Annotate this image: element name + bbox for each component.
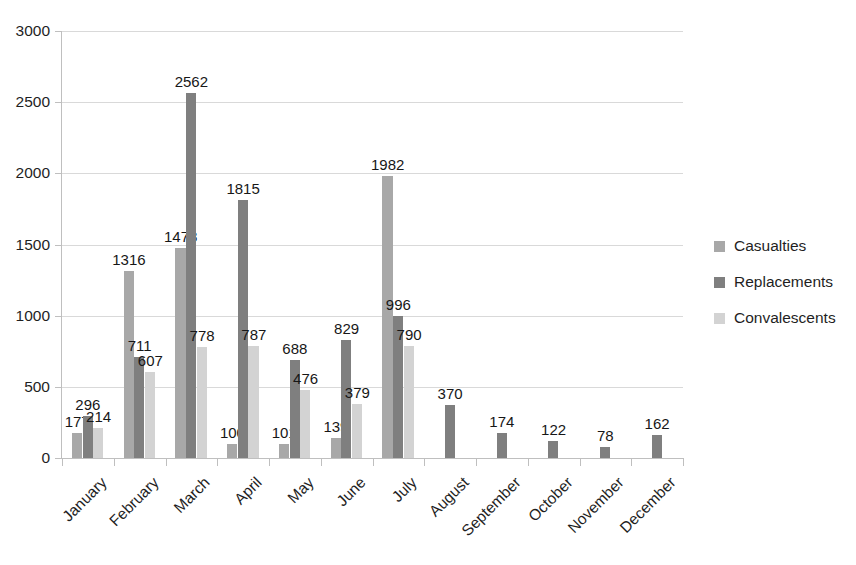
x-axis-tick [269,458,270,466]
x-axis-tick [373,458,374,466]
category-group: 78 [580,31,632,458]
bar-replacements-october [548,441,558,458]
bar-value-label: 2562 [165,74,217,89]
bar-replacements-march [186,93,196,458]
category-group: 101688476 [269,31,321,458]
category-group: 1982996790 [373,31,425,458]
bar-convalescents-march [197,347,207,458]
x-axis-tick [321,458,322,466]
category-group: 1316711607 [114,31,166,458]
x-axis-tick [683,458,684,466]
category-group: 1001815787 [217,31,269,458]
x-axis-tick [580,458,581,466]
bar-convalescents-july [404,346,414,458]
bar-value-label: 829 [321,321,373,336]
x-axis-tick [476,458,477,466]
category-group: 174 [476,31,528,458]
x-axis-tick [166,458,167,466]
category-group: 162 [631,31,683,458]
x-axis-tick [114,458,115,466]
x-axis-tick [424,458,425,466]
bar-value-label: 370 [424,386,476,401]
plot-area: 1772962141316711607147825627781001815787… [62,31,683,458]
y-axis-label: 500 [24,379,50,395]
category-group: 139829379 [321,31,373,458]
chart-legend: CasualtiesReplacementsConvalescents [714,228,836,336]
y-axis-label: 2000 [16,165,50,181]
legend-swatch-icon [714,313,725,324]
bar-casualties-july [382,176,392,458]
x-axis-tick [62,458,63,466]
bar-casualties-may [279,444,289,458]
legend-item-convalescents[interactable]: Convalescents [714,300,836,336]
x-axis-tick [631,458,632,466]
y-axis-label: 2500 [16,94,50,110]
y-axis-label: 1500 [16,237,50,253]
bar-convalescents-january [93,428,103,458]
category-group: 14782562778 [166,31,218,458]
y-axis-label: 3000 [16,23,50,39]
bar-convalescents-april [248,346,258,458]
bar-replacements-december [652,435,662,458]
bar-replacements-november [600,447,610,458]
category-group: 370 [424,31,476,458]
bar-value-label: 78 [579,428,631,443]
bar-value-label: 162 [631,416,683,431]
bar-value-label: 688 [269,341,321,356]
bar-replacements-september [497,433,507,458]
legend-swatch-icon [714,277,725,288]
legend-label: Convalescents [734,310,836,326]
bar-replacements-august [445,405,455,458]
bar-replacements-february [134,357,144,458]
bar-casualties-april [227,444,237,458]
bar-casualties-june [331,438,341,458]
bar-chart: 300025002000150010005000 177296214131671… [0,0,856,565]
category-group: 177296214 [62,31,114,458]
y-axis-label: 1000 [16,308,50,324]
bar-value-label: 1982 [362,157,414,172]
legend-swatch-icon [714,241,725,252]
bar-casualties-march [175,248,185,458]
bar-value-label: 122 [528,422,580,437]
bar-value-label: 711 [114,338,166,353]
bar-value-label: 174 [476,414,528,429]
bar-convalescents-june [352,404,362,458]
bar-value-label: 1316 [103,252,155,267]
bar-convalescents-february [145,372,155,458]
bar-convalescents-may [300,390,310,458]
bar-value-label: 1815 [217,181,269,196]
y-axis-label: 0 [41,450,50,466]
legend-item-replacements[interactable]: Replacements [714,264,836,300]
bar-casualties-january [72,433,82,458]
bar-value-label: 1478 [155,229,207,244]
bar-value-label: 996 [372,297,424,312]
x-axis-tick [528,458,529,466]
legend-item-casualties[interactable]: Casualties [714,228,836,264]
category-group: 122 [528,31,580,458]
x-axis-tick [217,458,218,466]
legend-label: Casualties [734,238,806,254]
legend-label: Replacements [734,274,833,290]
